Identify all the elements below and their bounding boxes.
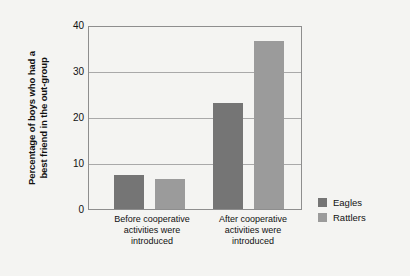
- legend-swatch-eagles-icon: [318, 198, 327, 207]
- x-category-after-line-1: After cooperative: [198, 214, 308, 225]
- x-category-before-line-3: introduced: [97, 236, 207, 247]
- bar-eagles-before: [114, 175, 144, 210]
- legend-item-rattlers: Rattlers: [318, 211, 366, 224]
- bar-chart-figure: Percentage of boys who had a best friend…: [0, 0, 410, 276]
- bar-eagles-after: [213, 103, 243, 209]
- x-category-after-line-2: activities were: [198, 225, 308, 236]
- chart-legend: Eagles Rattlers: [318, 196, 366, 226]
- y-axis-title-line-2: best friend in the out-group: [38, 26, 50, 210]
- bar-rattlers-before: [155, 179, 185, 209]
- bar-rattlers-after: [254, 41, 284, 209]
- y-tick-label-30: 30: [60, 67, 84, 77]
- x-category-before-line-2: activities were: [97, 225, 207, 236]
- x-category-after-line-3: introduced: [198, 236, 308, 247]
- legend-label-eagles: Eagles: [333, 197, 362, 208]
- legend-label-rattlers: Rattlers: [333, 212, 366, 223]
- y-axis-title-line-1: Percentage of boys who had a: [26, 26, 38, 210]
- x-category-label-after: After cooperative activities were introd…: [198, 214, 308, 247]
- y-tick-label-40: 40: [60, 21, 84, 31]
- legend-swatch-rattlers-icon: [318, 213, 327, 222]
- y-tick-label-20: 20: [60, 113, 84, 123]
- y-tick-label-10: 10: [60, 159, 84, 169]
- plot-area: [88, 26, 302, 210]
- x-category-before-line-1: Before cooperative: [97, 214, 207, 225]
- legend-item-eagles: Eagles: [318, 196, 366, 209]
- y-axis-tick-labels: 40 30 20 10 0: [58, 0, 84, 276]
- x-category-label-before: Before cooperative activities were intro…: [97, 214, 207, 247]
- y-tick-label-0: 0: [60, 205, 84, 215]
